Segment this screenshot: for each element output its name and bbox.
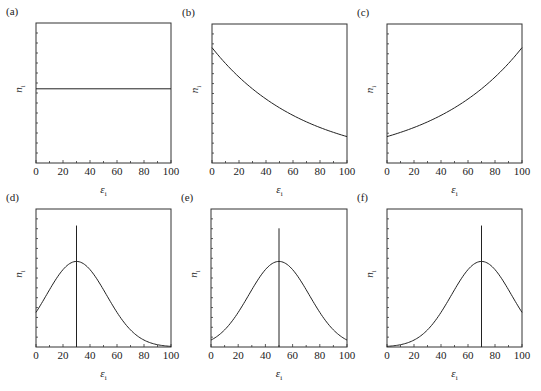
panel-label: (e) [181, 191, 194, 204]
x-tick-label: 20 [409, 165, 421, 177]
x-tick-label: 100 [163, 165, 180, 177]
x-tick-label: 100 [339, 349, 356, 361]
x-tick-label: 0 [384, 165, 390, 177]
y-axis-label: ni [12, 85, 27, 93]
x-tick-label: 60 [463, 349, 475, 361]
x-tick-label: 100 [514, 165, 531, 177]
x-axis-label: εi [276, 183, 282, 198]
panel-e: 020406080100(e)εini [181, 191, 356, 382]
x-tick-label: 0 [33, 165, 39, 177]
panel-label: (a) [6, 5, 19, 18]
panel-d: 020406080100(d)εini [6, 191, 180, 382]
x-tick-label: 60 [288, 165, 300, 177]
x-tick-label: 80 [315, 165, 327, 177]
x-tick-label: 20 [58, 349, 70, 361]
x-axis-label: εi [276, 367, 282, 382]
data-curve [387, 261, 522, 346]
y-axis-label: ni [12, 270, 27, 278]
x-tick-label: 100 [163, 349, 180, 361]
x-tick-label: 0 [209, 165, 215, 177]
x-tick-label: 60 [112, 165, 124, 177]
x-axis-label: εi [451, 367, 457, 382]
x-tick-label: 80 [490, 165, 502, 177]
panel-label: (f) [357, 191, 368, 204]
x-tick-label: 20 [234, 165, 246, 177]
x-tick-label: 80 [314, 349, 326, 361]
x-tick-label: 40 [261, 165, 273, 177]
figure: 020406080100(a)εini020406080100(b)εini02… [0, 0, 541, 391]
data-curve [36, 261, 171, 346]
x-tick-label: 0 [384, 349, 390, 361]
data-curve [212, 48, 347, 137]
x-tick-label: 40 [85, 349, 97, 361]
x-tick-label: 40 [436, 349, 448, 361]
x-tick-label: 100 [514, 349, 531, 361]
axes-frame [36, 23, 171, 163]
x-tick-label: 80 [490, 349, 502, 361]
x-tick-label: 80 [139, 349, 151, 361]
x-axis-label: εi [451, 183, 457, 198]
x-axis-label: εi [100, 183, 106, 198]
data-curve [387, 48, 522, 137]
x-tick-label: 0 [208, 349, 214, 361]
panel-a: 020406080100(a)εini [6, 5, 180, 198]
panel-f: 020406080100(f)εini [357, 191, 531, 382]
x-tick-label: 60 [112, 349, 124, 361]
x-tick-label: 100 [339, 165, 356, 177]
panel-label: (d) [6, 191, 19, 204]
y-axis-label: ni [363, 86, 378, 94]
x-tick-label: 20 [409, 349, 421, 361]
x-tick-label: 60 [287, 349, 299, 361]
x-tick-label: 20 [58, 165, 70, 177]
panel-c: 020406080100(c)εini [357, 6, 531, 198]
panel-label: (c) [357, 6, 370, 19]
x-tick-label: 40 [436, 165, 448, 177]
panel-label: (b) [182, 6, 195, 19]
axes-frame [212, 24, 347, 163]
x-tick-label: 60 [463, 165, 475, 177]
x-tick-label: 40 [85, 165, 97, 177]
axes-frame [387, 24, 522, 163]
y-axis-label: ni [188, 86, 203, 94]
y-axis-label: ni [187, 270, 202, 278]
panel-b: 020406080100(b)εini [182, 6, 356, 198]
x-tick-label: 20 [233, 349, 245, 361]
x-tick-label: 40 [260, 349, 272, 361]
x-tick-label: 0 [33, 349, 39, 361]
x-axis-label: εi [100, 367, 106, 382]
y-axis-label: ni [363, 270, 378, 278]
x-tick-label: 80 [139, 165, 151, 177]
